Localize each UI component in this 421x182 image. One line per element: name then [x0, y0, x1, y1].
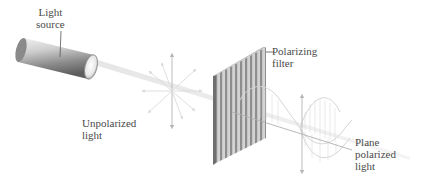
polarization-diagram: Light source Polarizing filter Unpolariz…: [0, 0, 421, 182]
light-source-cylinder: [13, 31, 100, 81]
polarizing-filter: [213, 47, 274, 165]
unpolarized-light-label: Unpolarized light: [82, 117, 136, 141]
polarizing-filter-label: Polarizing filter: [272, 45, 317, 69]
unpolarized-arrows: [143, 55, 201, 127]
light-source-label: Light source: [36, 6, 65, 30]
plane-polarized-light-label: Plane polarized light: [355, 136, 396, 172]
